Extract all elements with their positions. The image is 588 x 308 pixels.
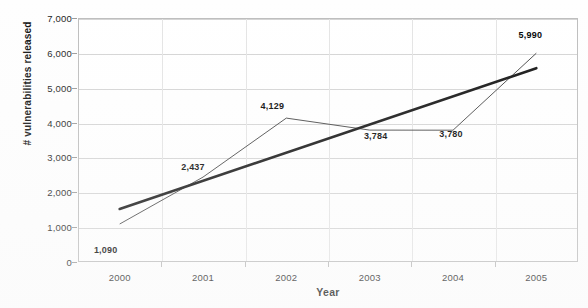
data-point-label: 2,437 xyxy=(181,162,205,172)
x-axis-tick-label: 2001 xyxy=(168,272,238,283)
y-axis-tick-label: 6,000 xyxy=(10,47,72,58)
y-axis-tick-label: 1,000 xyxy=(10,222,72,233)
x-axis-tick-label: 2004 xyxy=(418,272,488,283)
vulnerabilities-line-chart: # vulnerabilities released 01,0002,0003,… xyxy=(0,0,588,308)
vertical-gridline xyxy=(329,19,330,261)
x-axis-tickmark xyxy=(161,262,162,267)
x-axis-tickmark xyxy=(328,262,329,267)
x-axis-tickmark xyxy=(495,262,496,267)
gridline xyxy=(79,124,577,125)
gridline xyxy=(79,193,577,194)
x-axis-tick-label: 2003 xyxy=(335,272,405,283)
data-point-label: 3,784 xyxy=(364,131,388,141)
y-axis-tick-label: 3,000 xyxy=(10,152,72,163)
vertical-gridline xyxy=(496,19,497,261)
x-axis-tick-label: 2005 xyxy=(501,272,571,283)
data-point-label: 4,129 xyxy=(261,101,285,111)
x-axis-tickmarks xyxy=(78,262,578,268)
y-axis-tickmark xyxy=(72,157,77,158)
plot-area xyxy=(78,18,578,262)
vertical-gridline xyxy=(246,19,247,261)
x-axis-tick-label: 2000 xyxy=(85,272,155,283)
gridline xyxy=(79,89,577,90)
x-axis-tick-labels: 200020012002200320042005 xyxy=(78,272,578,286)
y-axis-tickmark xyxy=(72,192,77,193)
x-axis-tickmark xyxy=(411,262,412,267)
gridline xyxy=(79,228,577,229)
data-point-label: 5,990 xyxy=(519,30,543,40)
x-axis-tick-label: 2002 xyxy=(251,272,321,283)
x-axis-tickmark xyxy=(245,262,246,267)
y-axis-tick-label: 2,000 xyxy=(10,187,72,198)
vertical-gridline xyxy=(412,19,413,261)
y-axis-tick-labels: 01,0002,0003,0004,0005,0006,0007,000 xyxy=(0,18,72,262)
y-axis-tickmark xyxy=(72,53,77,54)
y-axis-tick-label: 7,000 xyxy=(10,13,72,24)
vertical-gridline xyxy=(162,19,163,261)
data-point-label: 3,780 xyxy=(439,129,463,139)
gridline xyxy=(79,158,577,159)
y-axis-tickmark xyxy=(72,88,77,89)
gridline xyxy=(79,54,577,55)
data-point-label: 1,090 xyxy=(94,245,118,255)
y-axis-tickmark xyxy=(72,262,77,263)
y-axis-tick-label: 4,000 xyxy=(10,117,72,128)
y-axis-tick-label: 5,000 xyxy=(10,82,72,93)
y-axis-tickmark xyxy=(72,123,77,124)
gridline xyxy=(79,19,577,20)
y-axis-tickmark xyxy=(72,227,77,228)
y-axis-tickmark xyxy=(72,18,77,19)
x-axis-title: Year xyxy=(78,286,578,298)
y-axis-tick-label: 0 xyxy=(10,257,72,268)
